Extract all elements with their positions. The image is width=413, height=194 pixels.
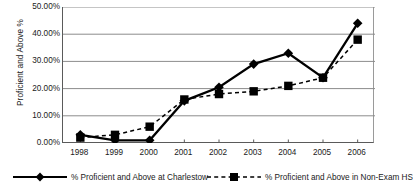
legend-item-series-0: % Proficient and Above at Charlestow	[12, 168, 208, 186]
series-line-0	[80, 23, 357, 140]
y-axis-tick-label: 20.00%	[16, 85, 60, 93]
x-axis-tick-labels: 199819992000200120022003200420052006	[62, 148, 374, 162]
data-point-marker	[353, 35, 361, 43]
legend-marker-diamond-icon	[12, 170, 68, 184]
plot-area	[62, 7, 374, 143]
legend-marker-square-icon	[206, 170, 262, 184]
legend-label-series-0: % Proficient and Above at Charlestow	[71, 173, 208, 182]
data-point-marker	[249, 87, 257, 95]
plot-svg	[63, 7, 375, 143]
y-axis-tick-label: 40.00%	[16, 30, 60, 38]
legend-item-series-1: % Proficient and Above in Non-Exam HS	[206, 168, 413, 186]
y-axis-tick-label: 10.00%	[16, 112, 60, 120]
x-axis-tick-label: 2006	[337, 148, 377, 158]
y-axis-tick-labels: 50.00%40.00%30.00%20.00%10.00%0.00%	[16, 0, 60, 150]
y-axis-tick-label: 0.00%	[16, 139, 60, 147]
y-axis-tick-label: 50.00%	[16, 3, 60, 11]
data-point-marker	[284, 82, 292, 90]
chart-legend: % Proficient and Above at Charlestow % P…	[0, 168, 394, 190]
y-axis-tick-label: 30.00%	[16, 57, 60, 65]
legend-label-series-1: % Proficient and Above in Non-Exam HS	[265, 173, 413, 182]
data-point-marker	[145, 122, 153, 130]
